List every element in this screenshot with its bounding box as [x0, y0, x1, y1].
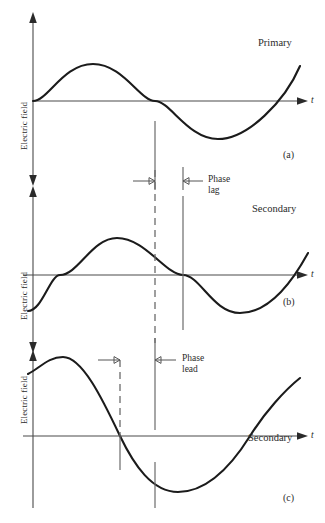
panel-a-y-axis-label: Electric field [20, 102, 30, 150]
phase-lag-lead-figure: Electric field t Primary (a) Electric fi… [0, 0, 325, 523]
panel-b-x-axis-label: t [311, 269, 314, 279]
panel-b-caption: (b) [283, 297, 295, 308]
panel-b-x-axis-arrow [297, 271, 308, 278]
panel-b-y-axis-label: Electric field [20, 272, 30, 320]
panel-c-phase-label-line1: Phase [182, 353, 204, 363]
panel-a-x-axis-arrow [297, 97, 308, 104]
panel-a-y-axis-arrow-bottom [29, 175, 37, 186]
panel-c-series-label: Secondary [248, 432, 292, 443]
panel-c-wave-secondary [28, 357, 300, 492]
panel-c-phase-lead-marker [98, 357, 176, 364]
panel-c-y-axis-label: Electric field [20, 376, 30, 424]
panel-a-x-axis-label: t [311, 95, 314, 105]
panel-c-y-axis-arrow-top [29, 350, 37, 361]
panel-c-x-axis-label: t [311, 430, 314, 440]
panel-c-phase-label-line2: lead [182, 364, 198, 374]
panel-a-y-axis-arrow-top [29, 12, 37, 23]
panel-c-x-axis-arrow [297, 432, 308, 439]
panel-b-y-axis-arrow-top [29, 186, 37, 197]
panel-b-phase-label-line1: Phase [208, 174, 230, 184]
panel-b-phase-label-line2: lag [208, 185, 220, 195]
panel-b-series-label: Secondary [252, 203, 296, 214]
panel-a-series-label: Primary [258, 37, 292, 48]
panel-a-caption: (a) [283, 150, 294, 161]
figure-canvas [0, 0, 325, 523]
panel-c-caption: (c) [283, 493, 294, 504]
panel-b-graph [23, 170, 308, 353]
panel-c-graph [23, 338, 308, 508]
panel-b-phase-lag-marker [133, 178, 203, 185]
